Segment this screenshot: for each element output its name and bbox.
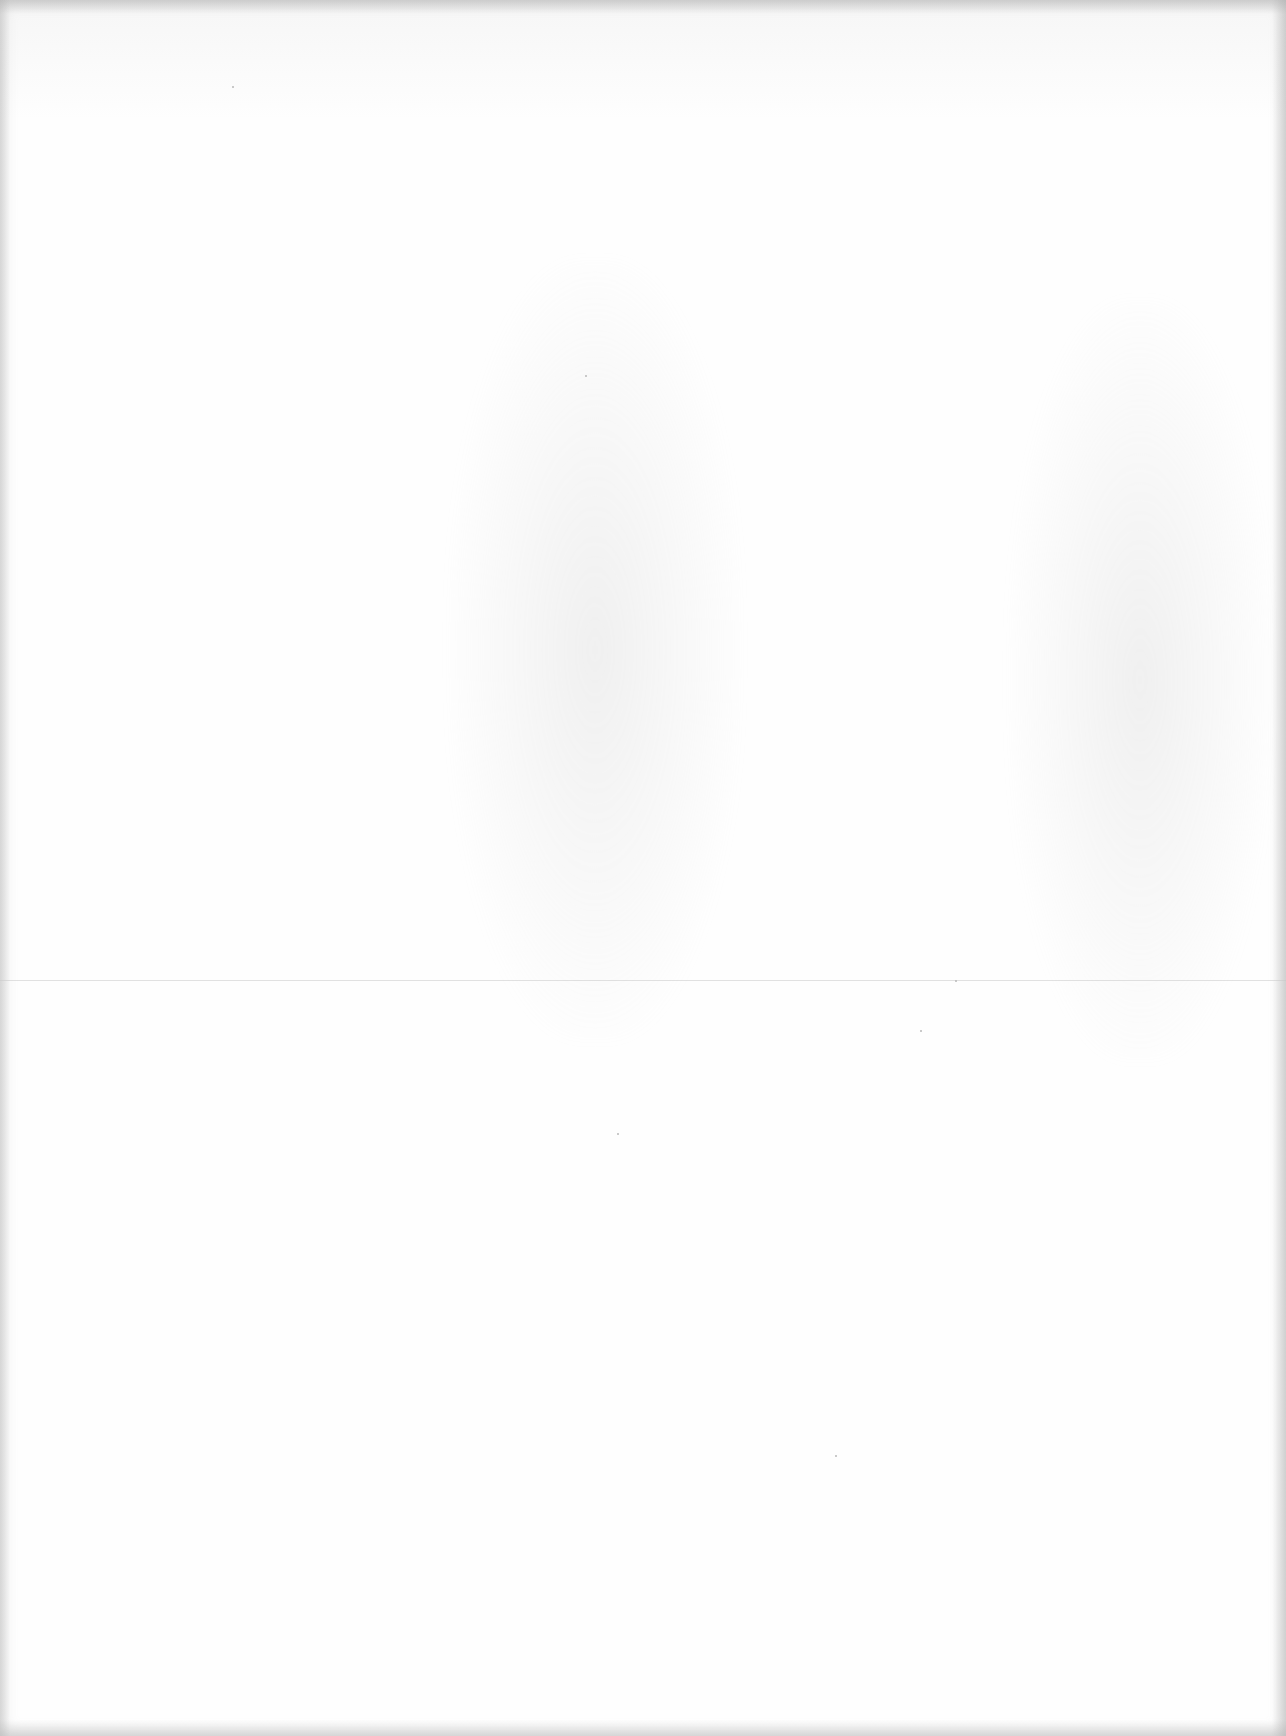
page-edge-left: [0, 0, 10, 1736]
dust-speck: [955, 980, 957, 982]
dust-speck: [835, 1455, 837, 1457]
dust-speck: [920, 1030, 922, 1032]
paper-fold-line: [0, 980, 1286, 981]
dust-speck: [232, 86, 234, 88]
show-through-blob-center: [450, 260, 740, 1040]
page-edge-bottom: [0, 1720, 1286, 1736]
page-edge-right: [1272, 0, 1286, 1736]
page-edge-top: [0, 0, 1286, 14]
top-edge-shading: [0, 0, 1286, 120]
show-through-blob-right: [1010, 300, 1270, 1060]
blank-scanned-page: [0, 0, 1286, 1736]
dust-speck: [585, 375, 587, 377]
dust-speck: [617, 1133, 619, 1135]
